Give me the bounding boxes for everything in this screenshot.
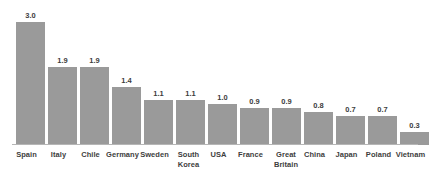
bar-group: 1.9: [79, 0, 110, 145]
bar-group: 0.7: [335, 0, 366, 145]
bar-group: 0.9: [271, 0, 302, 145]
category-label-france: France: [231, 150, 271, 160]
bar-group: 3.0: [15, 0, 46, 145]
bar-rect[interactable]: [112, 87, 141, 145]
bar-value-label: 1.1: [175, 89, 206, 98]
bar-value-label: 1.1: [143, 89, 174, 98]
bar-rect[interactable]: [304, 112, 333, 145]
bar-group: 0.8: [303, 0, 334, 145]
bar-value-label: 0.3: [399, 121, 430, 130]
bar-rect[interactable]: [80, 67, 109, 145]
bar-group: 0.9: [239, 0, 270, 145]
bar-value-label: 0.7: [367, 105, 398, 114]
bar-value-label: 0.7: [335, 105, 366, 114]
bar-rect[interactable]: [368, 116, 397, 145]
plot-area: 3.0 1.9 1.9 1.4 1.1 1.1 1.0 0.9: [0, 0, 432, 145]
bar-rect[interactable]: [144, 100, 173, 145]
bar-rect[interactable]: [48, 67, 77, 145]
bar-group: 1.9: [47, 0, 78, 145]
bar-value-label: 1.9: [47, 56, 78, 65]
bar-group: 1.1: [175, 0, 206, 145]
bar-group: 0.7: [367, 0, 398, 145]
bar-rect[interactable]: [272, 108, 301, 145]
category-label-vietnam: Vietnam: [391, 150, 431, 160]
bar-value-label: 0.9: [271, 97, 302, 106]
bar-rect[interactable]: [16, 22, 45, 145]
bar-group: 1.4: [111, 0, 142, 145]
x-axis-labels: Spain Italy Chile Germany Sweden South K…: [0, 150, 432, 190]
bar-group: 1.1: [143, 0, 174, 145]
bar-group: 0.3: [399, 0, 430, 145]
bar-chart: 3.0 1.9 1.9 1.4 1.1 1.1 1.0 0.9: [0, 0, 432, 196]
bar-value-label: 3.0: [15, 11, 46, 20]
bar-value-label: 1.0: [207, 93, 238, 102]
category-label-sweden: Sweden: [135, 150, 175, 160]
bar-rect[interactable]: [176, 100, 205, 145]
bar-rect[interactable]: [208, 104, 237, 145]
bar-value-label: 0.9: [239, 97, 270, 106]
bar-group: 1.0: [207, 0, 238, 145]
x-axis-line: [12, 144, 418, 145]
bar-value-label: 1.9: [79, 56, 110, 65]
bar-value-label: 1.4: [111, 76, 142, 85]
bar-rect[interactable]: [240, 108, 269, 145]
bar-value-label: 0.8: [303, 101, 334, 110]
bar-rect[interactable]: [336, 116, 365, 145]
